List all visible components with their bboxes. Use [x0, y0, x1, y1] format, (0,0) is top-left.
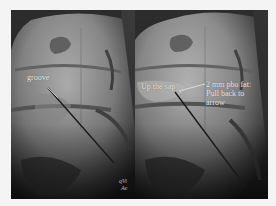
xray-panel-left: groove qVi Ae	[11, 10, 135, 199]
xray-image-left	[11, 10, 135, 199]
xray-figure: groove qVi Ae	[11, 10, 268, 199]
xray-image-right	[135, 10, 268, 199]
label-groove: groove	[27, 73, 49, 82]
label-up-the-sap: Up the sap	[141, 82, 175, 91]
watermark-line2: Ae	[121, 185, 127, 191]
label-instruction-line3: arrow	[206, 98, 225, 107]
watermark-line1: qVi	[119, 178, 127, 184]
label-instruction-line2: Pull back to	[206, 89, 244, 98]
label-instruction-line1: 2 mm pbo fat:	[206, 80, 251, 89]
xray-panel-right: Up the sap 2 mm pbo fat: Pull back to ar…	[135, 10, 268, 199]
